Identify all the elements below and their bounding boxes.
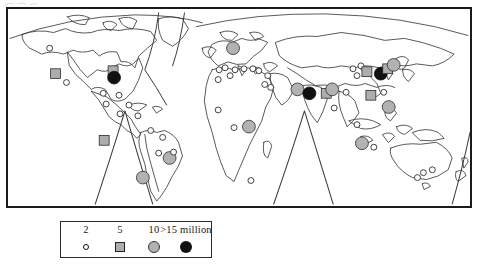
city-marker [99,135,109,145]
city-marker [381,89,387,95]
city-marker [265,73,271,79]
city-marker [326,83,339,96]
city-marker [171,149,177,155]
city-marker [362,67,372,77]
city-marker [135,113,141,119]
legend-symbol-gray-circle [148,239,160,255]
city-marker [350,66,356,72]
city-marker [227,73,233,79]
city-marker [250,66,256,72]
city-marker [148,128,154,134]
city-marker [387,58,400,71]
city-marker [256,68,262,74]
city-marker [429,167,435,173]
legend-label-10-million: 10 [149,224,160,236]
city-marker [103,101,109,107]
map-canvas [8,9,470,206]
city-marker [354,122,360,128]
city-marker [160,134,166,140]
city-marker [382,101,395,114]
legend-label-over-15-million: >15 million [160,224,212,236]
city-marker [136,171,149,184]
city-marker [117,111,123,117]
legend-label-5-million: 5 [117,224,122,236]
city-marker [156,150,162,156]
city-marker [215,107,221,113]
legend-label-2-million: 2 [83,224,88,236]
map-frame [6,7,472,208]
city-marker [262,82,268,88]
legend: 2 5 10 >15 million [60,221,212,258]
city-marker [216,67,222,73]
city-marker [108,71,121,84]
city-marker [268,84,274,90]
legend-symbol-small-open-circle [83,239,89,255]
city-marker [126,102,132,108]
city-marker [414,175,420,181]
city-marker [232,67,238,73]
city-marker [420,170,426,176]
city-marker [222,65,228,71]
city-marker [354,73,360,79]
city-marker [242,120,255,133]
city-marker [331,105,337,111]
city-marker [366,90,376,100]
world-population-map-figure: 2 5 10 >15 million [0,0,478,271]
legend-symbol-black-circle [180,239,192,255]
city-marker [116,92,122,98]
city-marker [371,144,377,150]
city-marker [303,87,316,100]
city-marker [241,66,247,72]
legend-symbol-gray-square [115,239,125,255]
city-marker [47,45,53,51]
city-marker [227,42,240,55]
city-marker [343,89,349,95]
city-marker [100,90,106,96]
city-marker [51,69,61,79]
city-markers-layer [47,42,436,184]
city-marker [355,137,368,150]
legend-item-over-15-million: >15 million [161,224,211,257]
city-marker [291,83,304,96]
city-marker [248,178,254,184]
city-marker [231,125,237,131]
coastlines [10,13,470,204]
city-marker [64,80,70,86]
city-marker [215,77,221,83]
